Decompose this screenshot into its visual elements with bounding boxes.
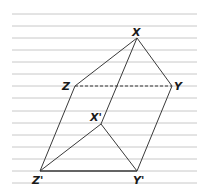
label-y: Y bbox=[174, 80, 183, 93]
label-x: X bbox=[131, 26, 141, 39]
label-z-prime: Z' bbox=[31, 174, 43, 187]
label-x-prime: X' bbox=[89, 111, 102, 124]
diagram-edges bbox=[40, 38, 172, 171]
label-y-prime: Y' bbox=[133, 174, 144, 187]
edge-y-yp bbox=[137, 86, 172, 171]
label-z: Z bbox=[61, 80, 71, 93]
edge-z-zp bbox=[40, 86, 75, 171]
prism-diagram: X Y Z X' Y' Z' bbox=[0, 0, 209, 196]
ruled-lines bbox=[12, 14, 197, 183]
